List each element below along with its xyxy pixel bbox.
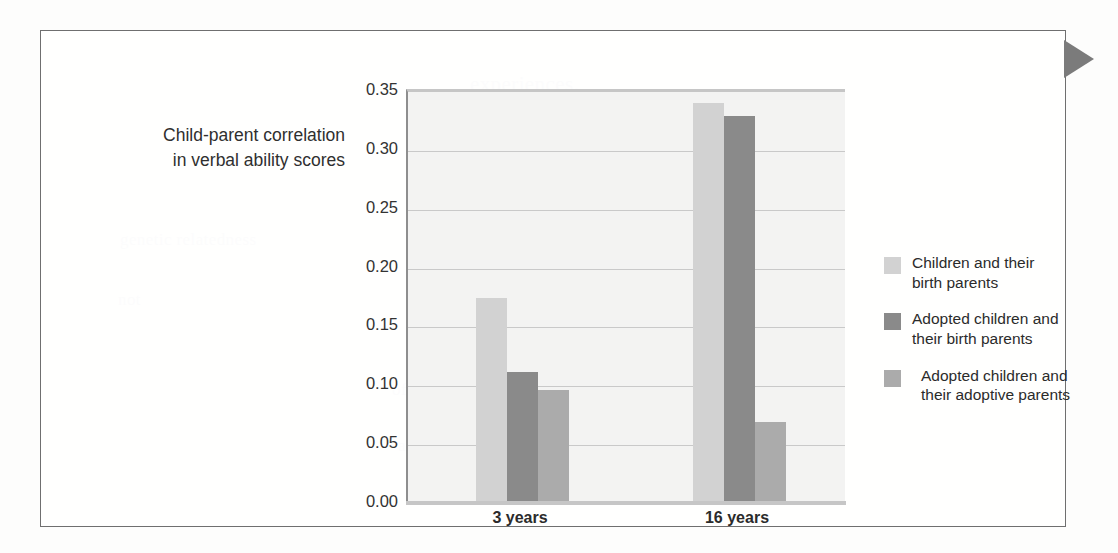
chart-legend: Children and theirbirth parentsAdopted c…	[884, 253, 1089, 422]
legend-label-line: Children and their	[912, 254, 1034, 271]
y-axis-title-line-1: Child-parent correlation	[163, 125, 345, 145]
y-axis-tick-label: 0.30	[340, 138, 398, 157]
y-axis-tick-label: 0.10	[340, 374, 398, 393]
legend-label: Adopted children andtheir adoptive paren…	[921, 366, 1070, 405]
y-axis-tick-label: 0.05	[340, 433, 398, 452]
legend-label-line: Adopted children and	[921, 367, 1068, 384]
gridline	[408, 151, 845, 152]
bar	[538, 390, 569, 504]
legend-label-line: their adoptive parents	[921, 385, 1070, 405]
y-axis-tick-label: 0.15	[340, 315, 398, 334]
legend-label-line: birth parents	[912, 273, 1034, 293]
y-axis-title: Child-parent correlation in verbal abili…	[87, 123, 345, 174]
legend-item: Adopted children andtheir adoptive paren…	[884, 366, 1089, 405]
y-axis-tick-label: 0.00	[340, 492, 398, 511]
legend-label: Adopted children andtheir birth parents	[912, 309, 1059, 348]
y-axis-tick-label: 0.25	[340, 197, 398, 216]
gridline	[408, 386, 845, 387]
legend-swatch	[884, 257, 901, 274]
gridline	[408, 269, 845, 270]
gridline	[408, 327, 845, 328]
y-axis-tick-label: 0.35	[340, 80, 398, 99]
y-axis-tick-label: 0.20	[340, 256, 398, 275]
figure-frame: Child-parent correlation in verbal abili…	[40, 30, 1066, 527]
legend-item: Adopted children andtheir birth parents	[884, 309, 1089, 348]
bar	[476, 298, 507, 504]
plot-area	[406, 89, 845, 504]
legend-label: Children and theirbirth parents	[912, 253, 1034, 292]
x-axis-tick-label: 16 years	[705, 509, 769, 527]
legend-swatch	[884, 313, 901, 330]
bar	[693, 103, 724, 504]
bar	[724, 116, 755, 504]
x-axis-baseline	[406, 501, 846, 505]
x-axis-tick-label: 3 years	[492, 509, 547, 527]
bar	[755, 422, 786, 504]
y-axis-title-line-2: in verbal ability scores	[173, 150, 345, 170]
y-axis-tick-labels: 0.000.050.100.150.200.250.300.35	[336, 89, 398, 501]
triangle-right-icon	[1064, 40, 1094, 78]
bar	[507, 372, 538, 504]
legend-label-line: their birth parents	[912, 329, 1059, 349]
legend-swatch	[884, 370, 901, 387]
legend-label-line: Adopted children and	[912, 310, 1059, 327]
legend-item: Children and theirbirth parents	[884, 253, 1089, 292]
gridline	[408, 210, 845, 211]
